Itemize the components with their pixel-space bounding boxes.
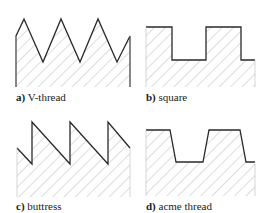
thread-profiles-diagram (0, 0, 270, 213)
caption-square: b) square (146, 91, 187, 103)
caption-acme-thread: d) acme thread (146, 200, 212, 212)
caption-label: V-thread (28, 91, 66, 103)
caption-label: buttress (27, 200, 61, 212)
caption-letter: b) (146, 91, 156, 103)
square-thread-profile (146, 27, 255, 87)
caption-label: acme thread (159, 200, 212, 212)
v-thread-profile (16, 19, 130, 87)
caption-label: square (159, 91, 188, 103)
caption-buttress: c) buttress (16, 200, 62, 212)
caption-v-thread: a) V-thread (16, 91, 66, 103)
caption-letter: d) (146, 200, 156, 212)
buttress-thread-profile (17, 122, 130, 197)
acme-thread-profile (146, 130, 255, 196)
caption-letter: c) (16, 200, 25, 212)
caption-letter: a) (16, 91, 25, 103)
